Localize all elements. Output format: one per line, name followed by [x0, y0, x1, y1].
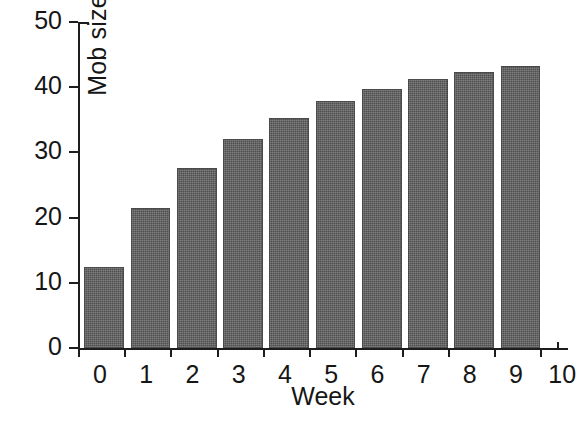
axis-corner-stub-top-left	[78, 22, 89, 24]
y-tick-label-10: 10	[34, 267, 62, 295]
y-tick-10: 10	[69, 282, 78, 284]
x-tick-8	[448, 348, 450, 357]
x-tick-0	[78, 348, 80, 357]
bar-week-8	[408, 79, 448, 348]
plot-area: 01020304050 012345678910	[78, 22, 568, 350]
y-tick-label-30: 30	[34, 136, 62, 164]
y-tick-label-0: 0	[48, 332, 62, 360]
y-tick-label-40: 40	[34, 71, 62, 99]
x-tick-5	[309, 348, 311, 357]
bar-week-1	[84, 267, 124, 349]
bar-week-2	[131, 208, 171, 348]
bar-week-10	[501, 66, 541, 348]
x-tick-6	[355, 348, 357, 357]
x-tick-10	[540, 348, 542, 357]
bar-week-5	[269, 118, 309, 348]
y-tick-30: 30	[69, 151, 78, 153]
x-tick-2	[170, 348, 172, 357]
bar-chart-figure: Mob size 01020304050 012345678910 Week	[0, 0, 583, 421]
x-tick-4	[263, 348, 265, 357]
y-axis-spine	[78, 22, 80, 350]
y-tick-label-20: 20	[34, 202, 62, 230]
x-tick-3	[217, 348, 219, 357]
x-axis-title: Week	[78, 382, 568, 411]
bar-week-3	[177, 168, 217, 348]
y-tick-40: 40	[69, 86, 78, 88]
y-tick-20: 20	[69, 217, 78, 219]
x-tick-1	[124, 348, 126, 357]
axis-corner-stub-top-right	[557, 342, 559, 350]
x-tick-7	[402, 348, 404, 357]
x-tick-9	[494, 348, 496, 357]
y-tick-50: 50	[69, 21, 78, 23]
bar-week-4	[223, 139, 263, 348]
bar-week-7	[362, 89, 402, 348]
y-axis-title-container: Mob size	[2, 30, 36, 330]
bar-week-6	[316, 101, 356, 348]
y-tick-label-50: 50	[34, 6, 62, 34]
y-tick-0: 0	[69, 347, 78, 349]
bar-week-9	[454, 72, 494, 348]
